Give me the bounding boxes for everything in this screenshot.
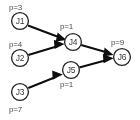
node-j4-label: J4 [69,37,78,47]
node-j6-weight-label: p=9 [111,38,125,47]
node-j2-label: J2 [16,53,25,63]
node-j5-label: J5 [67,65,76,75]
graph-canvas: J1 p=3 J2 p=4 J3 p=7 J4 p=1 [0,0,140,120]
node-j5[interactable]: J5 p=1 [60,62,79,89]
node-j3-weight-label: p=7 [9,105,23,114]
node-j5-weight-label: p=1 [60,80,74,89]
node-j3-label: J3 [16,87,25,97]
edge-j3-to-j5 [28,71,63,88]
node-j3[interactable]: J3 p=7 [9,84,28,114]
edge-j2-to-j4 [28,40,64,55]
node-j6[interactable]: J6 p=9 [111,38,130,66]
edge-j4-to-j6 [81,45,113,56]
node-j6-label: J6 [118,52,127,62]
node-j1[interactable]: J1 p=3 [9,3,28,30]
node-j2[interactable]: J2 p=4 [9,40,28,67]
edge-j3-to-j5-arrowhead [52,71,63,80]
edge-j5-to-j6-line [79,61,105,68]
edge-j1-to-j4-line [28,26,59,38]
edge-j4-to-j6-line [81,45,105,52]
node-j1-label: J1 [16,16,25,26]
node-j1-weight-label: p=3 [9,3,23,12]
edge-j2-to-j4-line [28,47,56,56]
edge-j2-to-j4-arrowhead [54,40,65,49]
precedence-graph-figure: J1 p=3 J2 p=4 J3 p=7 J4 p=1 [0,0,140,120]
node-j2-weight-label: p=4 [9,40,23,49]
node-j4[interactable]: J4 p=1 [60,22,81,51]
node-j4-weight-label: p=1 [60,22,74,31]
edge-j3-to-j5-line [28,78,54,89]
edge-j5-to-j6 [79,54,113,67]
